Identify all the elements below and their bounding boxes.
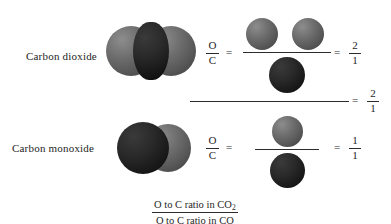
overall-result-numerator: 2	[367, 88, 379, 100]
equals-sign: =	[334, 141, 340, 153]
equals-sign: =	[352, 94, 358, 106]
equals-sign: =	[334, 46, 340, 58]
result-ratio-carbon-monoxide: 1 1	[349, 135, 361, 161]
caption-denominator: O to C ratio in CO	[152, 214, 238, 224]
oc-ratio-numerator: O	[206, 40, 219, 52]
fraction-bar	[255, 149, 319, 150]
oc-ratio-denominator: C	[206, 150, 219, 162]
fraction-bar	[152, 212, 238, 213]
molecule-label-carbon-dioxide: Carbon dioxide	[26, 50, 97, 62]
carbon-atom-sphere	[269, 57, 305, 93]
oc-ratio-denominator: C	[206, 55, 219, 67]
caption-numerator-text: O to C ratio in CO	[154, 199, 232, 210]
result-numerator: 1	[349, 135, 361, 147]
caption-ratio-fraction: O to C ratio in CO2 O to C ratio in CO	[152, 198, 238, 224]
result-numerator: 2	[349, 40, 361, 52]
oxygen-atom-sphere	[246, 18, 278, 50]
caption-numerator: O to C ratio in CO2	[152, 198, 238, 211]
oxygen-atom-sphere	[272, 116, 303, 147]
carbon-atom-sphere	[117, 122, 169, 174]
result-denominator: 1	[349, 55, 361, 67]
molecule-label-carbon-monoxide: Carbon monoxide	[12, 142, 94, 154]
result-denominator: 1	[349, 150, 361, 162]
carbon-atom-sphere	[270, 153, 305, 188]
sphere-fraction-carbon-monoxide	[255, 112, 319, 188]
molecule-model-carbon-dioxide	[106, 22, 196, 80]
caption-numerator-subscript: 2	[232, 203, 236, 212]
molecule-model-carbon-monoxide	[117, 122, 191, 174]
overall-fraction-bar	[190, 101, 349, 102]
result-ratio-carbon-dioxide: 2 1	[349, 40, 361, 66]
diagram-canvas: Carbon dioxide O C = = 2 1 = 2 1 Carbon …	[0, 0, 391, 224]
carbon-atom-sphere	[133, 22, 169, 80]
overall-result-denominator: 1	[367, 103, 379, 115]
oc-ratio-symbol-co2: O C	[206, 40, 219, 66]
oc-ratio-symbol-co: O C	[206, 135, 219, 161]
overall-result-ratio: 2 1	[367, 88, 379, 114]
equals-sign: =	[226, 141, 232, 153]
sphere-fraction-carbon-dioxide	[243, 12, 331, 92]
oc-ratio-numerator: O	[206, 135, 219, 147]
fraction-bar	[243, 52, 331, 53]
equals-sign: =	[226, 46, 232, 58]
oxygen-atom-sphere	[292, 18, 324, 50]
